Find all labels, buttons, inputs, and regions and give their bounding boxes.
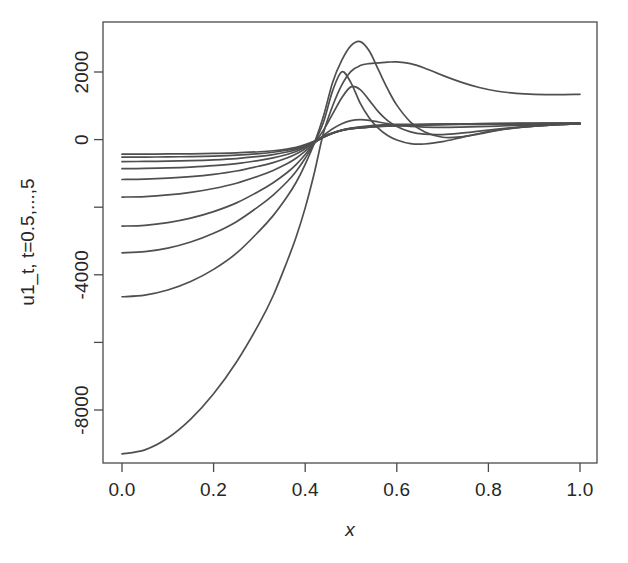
line-chart-svg: 0.00.20.40.60.81.0 20000-4000-8000 x u1_… [0,0,628,563]
y-axis-title: u1_t, t=0.5,...,5 [17,178,39,305]
y-tick-label: 0 [71,134,92,145]
chart-figure: 0.00.20.40.60.81.0 20000-4000-8000 x u1_… [0,0,628,563]
y-tick-label: 2000 [71,50,92,93]
x-tick-label: 0.0 [108,479,135,500]
x-tick-label: 0.6 [383,479,410,500]
x-tick-label: 1.0 [566,479,593,500]
x-tick-label: 0.8 [475,479,502,500]
x-tick-label: 0.4 [292,479,319,500]
y-tick-label: -4000 [71,250,92,300]
x-axis-title: x [344,519,356,540]
y-tick-label: -8000 [71,385,92,435]
x-tick-label: 0.2 [200,479,227,500]
